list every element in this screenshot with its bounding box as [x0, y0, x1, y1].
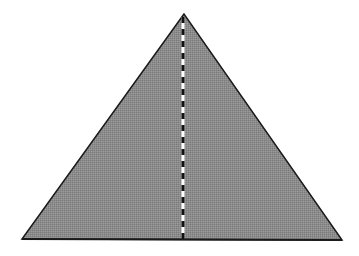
base-line: [22, 239, 342, 240]
triangle-diagram: [0, 0, 359, 256]
